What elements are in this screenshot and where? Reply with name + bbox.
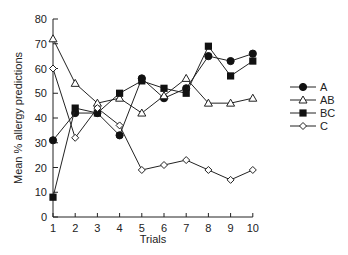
y-tick-label: 50 bbox=[35, 87, 47, 99]
axes: 0102030405060708012345678910 bbox=[35, 13, 259, 234]
legend-label: AB bbox=[320, 94, 335, 106]
y-tick-label: 30 bbox=[35, 137, 47, 149]
marker-diamond bbox=[227, 176, 234, 183]
legend-item-bc: BC bbox=[290, 107, 335, 119]
marker-square bbox=[299, 109, 306, 116]
line-chart: 0102030405060708012345678910 AABBCC Tria… bbox=[0, 0, 348, 255]
marker-diamond bbox=[249, 166, 256, 173]
marker-circle bbox=[49, 137, 56, 144]
x-tick-label: 4 bbox=[117, 222, 123, 234]
series-line bbox=[53, 69, 253, 180]
legend: AABBCC bbox=[290, 81, 335, 132]
marker-circle bbox=[116, 132, 123, 139]
series-line bbox=[53, 39, 253, 113]
marker-square bbox=[49, 194, 56, 201]
marker-circle bbox=[205, 53, 212, 60]
legend-label: BC bbox=[320, 107, 335, 119]
marker-square bbox=[116, 90, 123, 97]
legend-item-c: C bbox=[290, 120, 328, 132]
y-tick-label: 40 bbox=[35, 112, 47, 124]
marker-square bbox=[205, 43, 212, 50]
marker-diamond bbox=[183, 157, 190, 164]
series-c bbox=[50, 65, 257, 183]
marker-diamond bbox=[300, 123, 307, 130]
y-tick-label: 70 bbox=[35, 38, 47, 50]
marker-triangle bbox=[71, 79, 79, 86]
legend-label: A bbox=[320, 81, 328, 93]
marker-square bbox=[138, 77, 145, 84]
marker-diamond bbox=[161, 162, 168, 169]
y-tick-label: 10 bbox=[35, 186, 47, 198]
legend-item-a: A bbox=[290, 81, 328, 93]
marker-circle bbox=[299, 83, 306, 90]
marker-square bbox=[183, 90, 190, 97]
marker-square bbox=[227, 72, 234, 79]
series-group bbox=[49, 35, 257, 201]
marker-circle bbox=[249, 50, 256, 57]
marker-square bbox=[72, 105, 79, 112]
marker-triangle bbox=[182, 74, 190, 81]
marker-square bbox=[160, 85, 167, 92]
y-tick-label: 80 bbox=[35, 13, 47, 25]
x-tick-label: 8 bbox=[205, 222, 211, 234]
x-tick-label: 9 bbox=[228, 222, 234, 234]
legend-item-ab: AB bbox=[290, 94, 335, 106]
series-ab bbox=[49, 35, 257, 116]
y-tick-label: 0 bbox=[41, 211, 47, 223]
marker-diamond bbox=[205, 166, 212, 173]
x-axis-label: Trials bbox=[140, 233, 167, 245]
legend-label: C bbox=[320, 120, 328, 132]
marker-circle bbox=[227, 57, 234, 64]
x-tick-label: 7 bbox=[183, 222, 189, 234]
series-a bbox=[49, 50, 256, 144]
x-tick-label: 2 bbox=[72, 222, 78, 234]
y-tick-label: 60 bbox=[35, 63, 47, 75]
marker-diamond bbox=[50, 65, 57, 72]
x-tick-label: 1 bbox=[50, 222, 56, 234]
marker-diamond bbox=[138, 166, 145, 173]
series-line bbox=[53, 46, 253, 197]
y-tick-label: 20 bbox=[35, 162, 47, 174]
y-axis-label: Mean % allergy predictions bbox=[12, 51, 24, 184]
marker-triangle bbox=[249, 94, 257, 101]
marker-square bbox=[249, 57, 256, 64]
marker-triangle bbox=[49, 35, 57, 42]
marker-triangle bbox=[138, 109, 146, 116]
x-tick-label: 3 bbox=[94, 222, 100, 234]
x-tick-label: 10 bbox=[247, 222, 259, 234]
